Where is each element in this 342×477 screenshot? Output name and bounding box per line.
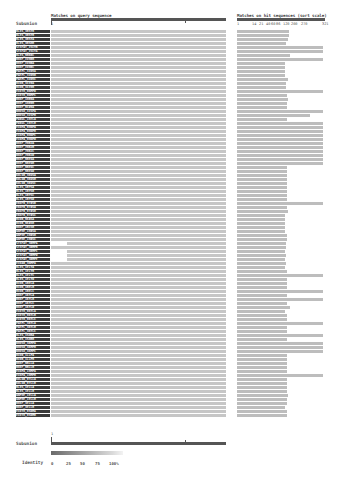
sequence-id-label[interactable]: BH4F_9BEGC xyxy=(16,166,50,169)
query-match-bar[interactable] xyxy=(51,246,226,249)
alignment-row[interactable]: ECOTH_9SNMB xyxy=(0,414,342,418)
hit-match-bar[interactable] xyxy=(237,178,287,181)
hit-match-bar[interactable] xyxy=(237,206,287,209)
hit-match-bar[interactable] xyxy=(237,126,323,129)
sequence-id-label[interactable]: KOLGR_3KGSB xyxy=(16,178,50,181)
hit-match-bar[interactable] xyxy=(237,194,287,197)
hit-match-bar[interactable] xyxy=(237,150,323,153)
hit-match-bar[interactable] xyxy=(237,202,323,205)
hit-match-bar[interactable] xyxy=(237,342,323,345)
query-match-bar[interactable] xyxy=(51,178,226,181)
hit-match-bar[interactable] xyxy=(237,354,287,357)
query-match-bar[interactable] xyxy=(51,182,226,185)
sequence-id-label[interactable]: BL4S_1SOBA xyxy=(16,334,50,337)
sequence-id-label[interactable]: GNPHE_1ELLA xyxy=(16,394,50,397)
query-match-bar[interactable] xyxy=(51,54,226,57)
hit-match-bar[interactable] xyxy=(237,134,323,137)
query-match-bar[interactable] xyxy=(51,114,226,117)
hit-match-bar[interactable] xyxy=(237,138,323,141)
query-match-bar[interactable] xyxy=(51,94,226,97)
query-match-bar[interactable] xyxy=(51,406,226,409)
hit-match-bar[interactable] xyxy=(237,114,310,117)
query-match-bar[interactable] xyxy=(51,410,226,413)
query-match-bar[interactable] xyxy=(51,202,226,205)
sequence-id-label[interactable]: BL4S_1ELYB xyxy=(16,270,50,273)
sequence-id-label[interactable]: BH4F_1HB9A xyxy=(16,98,50,101)
query-match-bar[interactable] xyxy=(51,286,226,289)
sequence-id-label[interactable]: BL4S_1ELLA xyxy=(16,386,50,389)
sequence-id-label[interactable]: BH4F_7HBJA xyxy=(16,142,50,145)
sequence-id-label[interactable]: BH4F_9BEGA xyxy=(16,158,50,161)
hit-match-bar[interactable] xyxy=(237,38,288,41)
hit-match-bar[interactable] xyxy=(237,274,323,277)
query-match-bar[interactable] xyxy=(51,174,226,177)
sequence-id-label[interactable]: ST3FAT_ISCYA xyxy=(16,50,50,53)
hit-match-bar[interactable] xyxy=(237,90,323,93)
hit-match-bar[interactable] xyxy=(237,182,287,185)
sequence-id-label[interactable]: BH4F_1KYLA xyxy=(16,294,50,297)
query-match-bar[interactable] xyxy=(51,50,226,53)
sequence-id-label[interactable]: PAEPL_3IN5B xyxy=(16,74,50,77)
sequence-id-label[interactable]: BH4F_7HBJB xyxy=(16,146,50,149)
query-match-bar[interactable] xyxy=(51,266,226,269)
hit-match-bar[interactable] xyxy=(237,238,287,241)
sequence-id-label[interactable]: BL4S_3BSYB xyxy=(16,30,50,33)
hit-match-bar[interactable] xyxy=(237,62,285,65)
query-match-bar[interactable] xyxy=(51,378,226,381)
hit-match-bar[interactable] xyxy=(237,82,286,85)
sequence-id-label[interactable]: ST3FAT_3RMPE xyxy=(16,258,50,261)
hit-match-bar[interactable] xyxy=(237,142,323,145)
hit-match-bar[interactable] xyxy=(237,302,287,305)
sequence-id-label[interactable]: BCOR_9K8SB xyxy=(16,222,50,225)
sequence-id-label[interactable]: BH4F_3ELLB xyxy=(16,406,50,409)
hit-match-bar[interactable] xyxy=(237,78,288,81)
query-match-bar[interactable] xyxy=(51,398,226,401)
query-match-bar[interactable] xyxy=(51,70,226,73)
hit-match-bar[interactable] xyxy=(237,358,287,361)
sequence-id-label[interactable]: ST3FAT_3RMPC xyxy=(16,250,50,253)
hit-match-bar[interactable] xyxy=(237,118,287,121)
sequence-id-label[interactable]: BH4F_1HB9B xyxy=(16,102,50,105)
sequence-id-label[interactable]: KOLGR_3KGSA xyxy=(16,174,50,177)
query-match-bar[interactable] xyxy=(51,374,226,377)
hit-match-bar[interactable] xyxy=(237,334,323,337)
hit-match-bar[interactable] xyxy=(237,166,287,169)
hit-match-bar[interactable] xyxy=(237,122,323,125)
query-match-bar[interactable] xyxy=(51,190,226,193)
query-match-bar[interactable] xyxy=(51,402,226,405)
query-match-bar[interactable] xyxy=(51,166,226,169)
sequence-id-label[interactable]: RHOSO_3KMPC xyxy=(16,350,50,353)
sequence-id-label[interactable]: ST3FAT_3RMPB xyxy=(16,246,50,249)
query-match-bar[interactable] xyxy=(51,138,226,141)
hit-match-bar[interactable] xyxy=(237,174,287,177)
hit-match-bar[interactable] xyxy=(237,66,285,69)
sequence-id-label[interactable]: BH4F_9BLLA xyxy=(16,362,50,365)
query-match-bar[interactable] xyxy=(51,30,226,33)
query-match-bar[interactable] xyxy=(51,350,226,353)
query-match-bar[interactable] xyxy=(51,46,226,49)
hit-match-bar[interactable] xyxy=(237,294,287,297)
hit-match-bar[interactable] xyxy=(237,318,287,321)
hit-match-bar[interactable] xyxy=(237,402,287,405)
hit-match-bar[interactable] xyxy=(237,30,289,33)
query-match-bar[interactable] xyxy=(51,150,226,153)
hit-match-bar[interactable] xyxy=(237,350,323,353)
sequence-id-label[interactable]: BL4S_1ELYD xyxy=(16,278,50,281)
sequence-id-label[interactable]: BH4F_1BCSB xyxy=(16,226,50,229)
query-match-bar[interactable] xyxy=(51,154,226,157)
query-match-bar[interactable] xyxy=(51,338,226,341)
sequence-id-label[interactable]: BH4F_IVHRB xyxy=(16,58,50,61)
query-match-bar[interactable] xyxy=(51,158,226,161)
query-match-bar[interactable] xyxy=(51,58,226,61)
query-match-bar[interactable] xyxy=(51,186,226,189)
query-match-bar[interactable] xyxy=(51,278,226,281)
hit-match-bar[interactable] xyxy=(237,70,285,73)
sequence-id-label[interactable]: ECOAR_3NMPA xyxy=(16,262,50,265)
hit-match-bar[interactable] xyxy=(237,58,323,61)
query-match-bar[interactable] xyxy=(51,342,226,345)
hit-match-bar[interactable] xyxy=(237,386,287,389)
hit-match-bar[interactable] xyxy=(237,286,287,289)
sequence-id-label[interactable]: ST3FAT_ISCYB xyxy=(16,46,50,49)
query-match-bar[interactable] xyxy=(51,386,226,389)
query-match-bar[interactable] xyxy=(51,222,226,225)
